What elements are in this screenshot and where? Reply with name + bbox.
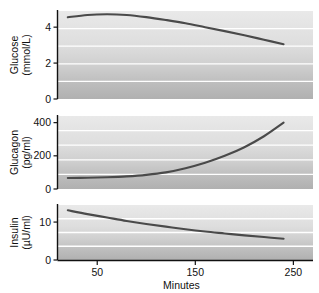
y-axis-label-line2-insulin: (µU/ml): [20, 215, 32, 250]
x-tick-label: 50: [91, 266, 103, 278]
y-axis-label-line2-glucagon: (pg/ml): [20, 136, 32, 169]
hormone-time-course-figure: 420Glucose(mmol/L)4002000Glucagon(pg/ml)…: [0, 0, 319, 293]
y-axis-label-glucose: Glucose(mmol/L): [8, 34, 32, 75]
y-axis-label-insulin: Insulin(µU/ml): [8, 215, 32, 250]
panel-glucagon: 4002000Glucagon(pg/ml): [8, 115, 314, 195]
y-tick-label-insulin: 10: [39, 216, 51, 228]
y-axis-label-line1-glucose: Glucose: [8, 36, 20, 75]
chart-canvas: 420Glucose(mmol/L)4002000Glucagon(pg/ml)…: [0, 0, 319, 293]
y-axis-label-line2-glucose: (mmol/L): [20, 34, 32, 75]
y-tick-label-glucagon: 0: [45, 183, 51, 195]
x-tick-label: 150: [187, 266, 205, 278]
x-tick-label: 250: [285, 266, 303, 278]
y-tick-label-glucagon: 200: [33, 149, 51, 161]
y-tick-label-glucose: 2: [45, 57, 51, 69]
y-tick-label-glucagon: 400: [33, 116, 51, 128]
y-tick-label-glucose: 0: [45, 93, 51, 105]
panel-insulin: 100Insulin(µU/ml)50150250Minutes: [8, 204, 314, 291]
x-axis-label: Minutes: [163, 279, 200, 291]
y-axis-label-glucagon: Glucagon(pg/ml): [8, 130, 32, 175]
panel-glucose: 420Glucose(mmol/L): [8, 10, 314, 105]
y-tick-label-glucose: 4: [45, 21, 51, 33]
y-axis-label-line1-glucagon: Glucagon: [8, 130, 20, 175]
y-axis-label-line1-insulin: Insulin: [8, 217, 20, 248]
y-tick-label-insulin: 0: [45, 254, 51, 266]
